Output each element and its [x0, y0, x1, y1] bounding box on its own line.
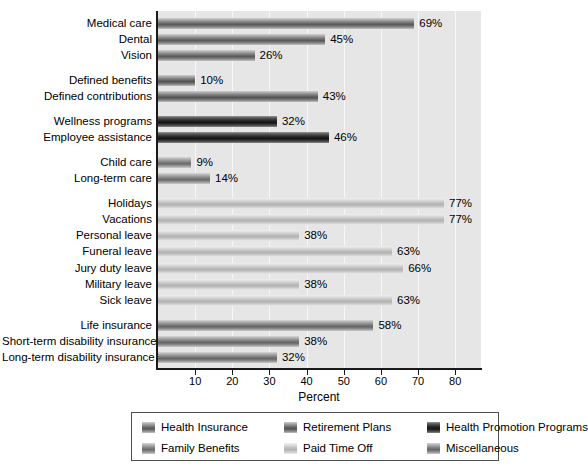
bar — [158, 132, 329, 143]
bar-value-label: 69% — [419, 17, 442, 30]
legend-swatch-icon — [427, 443, 440, 454]
bar-row: Funeral leave63% — [0, 245, 507, 258]
x-tick-label: 40 — [292, 375, 322, 388]
category-label: Wellness programs — [2, 115, 152, 128]
bar — [158, 263, 403, 274]
bar — [158, 91, 318, 102]
bar-row: Long-term care14% — [0, 172, 507, 185]
category-label: Personal leave — [2, 229, 152, 242]
gridline-10 — [195, 11, 196, 368]
bar-value-label: 58% — [378, 319, 401, 332]
x-tick-label: 20 — [217, 375, 247, 388]
bar-value-label: 38% — [304, 335, 327, 348]
legend-item-family[interactable]: Family Benefits — [142, 442, 240, 455]
bar-row: Military leave38% — [0, 278, 507, 291]
bar-row: Defined contributions43% — [0, 90, 507, 103]
bar-row: Medical care69% — [0, 17, 507, 30]
bar-value-label: 63% — [397, 245, 420, 258]
bar — [158, 18, 414, 29]
bar — [158, 246, 392, 257]
x-tick-label: 50 — [329, 375, 359, 388]
legend-label: Health Insurance — [161, 421, 248, 434]
legend-item-promo[interactable]: Health Promotion Programs — [427, 421, 588, 434]
bar — [158, 279, 299, 290]
bar — [158, 295, 392, 306]
bar — [158, 157, 191, 168]
bar — [158, 214, 444, 225]
bar-value-label: 38% — [304, 278, 327, 291]
legend-swatch-icon — [142, 422, 155, 433]
legend-swatch-icon — [427, 422, 440, 433]
bar-row: Dental45% — [0, 33, 507, 46]
legend-swatch-icon — [142, 443, 155, 454]
bar-row: Defined benefits10% — [0, 74, 507, 87]
legend-label: Retirement Plans — [303, 421, 391, 434]
legend-row-2: Family BenefitsPaid Time OffMiscellaneou… — [132, 438, 498, 458]
bar-row: Personal leave38% — [0, 229, 507, 242]
bar — [158, 50, 255, 61]
bar-row: Short-term disability insurance38% — [0, 335, 507, 348]
chart-legend: Health InsuranceRetirement PlansHealth P… — [131, 412, 499, 461]
bar-value-label: 10% — [200, 74, 223, 87]
bar — [158, 173, 210, 184]
plot-area — [157, 11, 481, 368]
legend-item-retire[interactable]: Retirement Plans — [284, 421, 391, 434]
bar-value-label: 63% — [397, 294, 420, 307]
x-tick-label: 70 — [403, 375, 433, 388]
legend-item-pto[interactable]: Paid Time Off — [284, 442, 372, 455]
bar-value-label: 9% — [196, 156, 213, 169]
bar-row: Sick leave63% — [0, 294, 507, 307]
category-label: Funeral leave — [2, 245, 152, 258]
bar-row: Vacations77% — [0, 213, 507, 226]
legend-item-misc[interactable]: Miscellaneous — [427, 442, 519, 455]
bar-value-label: 14% — [215, 172, 238, 185]
legend-label: Miscellaneous — [446, 442, 519, 455]
legend-item-health[interactable]: Health Insurance — [142, 421, 248, 434]
x-axis-title: Percent — [157, 390, 481, 404]
bar-value-label: 77% — [449, 197, 472, 210]
category-label: Employee assistance — [2, 131, 152, 144]
legend-label: Family Benefits — [161, 442, 240, 455]
category-label: Holidays — [2, 197, 152, 210]
gridline-50 — [344, 11, 345, 368]
category-label: Medical care — [2, 17, 152, 30]
legend-row-1: Health InsuranceRetirement PlansHealth P… — [132, 417, 498, 437]
gridline-40 — [307, 11, 308, 368]
bar-value-label: 43% — [323, 90, 346, 103]
bar-row: Jury duty leave66% — [0, 262, 507, 275]
x-axis-line — [156, 368, 482, 370]
bar — [158, 352, 277, 363]
category-label: Dental — [2, 33, 152, 46]
legend-swatch-icon — [284, 422, 297, 433]
bar-value-label: 32% — [282, 351, 305, 364]
category-label: Military leave — [2, 278, 152, 291]
legend-label: Health Promotion Programs — [446, 421, 588, 434]
bar — [158, 75, 195, 86]
bar-value-label: 45% — [330, 33, 353, 46]
gridline-70 — [418, 11, 419, 368]
x-tick-label: 60 — [366, 375, 396, 388]
category-label: Short-term disability insurance — [2, 335, 152, 348]
bar-value-label: 66% — [408, 262, 431, 275]
bar — [158, 198, 444, 209]
bar-value-label: 38% — [304, 229, 327, 242]
bar-row: Employee assistance46% — [0, 131, 507, 144]
bar — [158, 34, 325, 45]
bar — [158, 116, 277, 127]
category-label: Defined contributions — [2, 90, 152, 103]
bar-row: Child care9% — [0, 156, 507, 169]
bar-value-label: 77% — [449, 213, 472, 226]
category-label: Defined benefits — [2, 74, 152, 87]
category-label: Life insurance — [2, 319, 152, 332]
category-label: Sick leave — [2, 294, 152, 307]
y-axis-line — [156, 11, 158, 370]
gridline-60 — [381, 11, 382, 368]
category-label: Jury duty leave — [2, 262, 152, 275]
x-tick-label: 30 — [254, 375, 284, 388]
category-label: Vision — [2, 49, 152, 62]
bar-row: Wellness programs32% — [0, 115, 507, 128]
category-label: Vacations — [2, 213, 152, 226]
bar-row: Holidays77% — [0, 197, 507, 210]
bar-row: Vision26% — [0, 49, 507, 62]
